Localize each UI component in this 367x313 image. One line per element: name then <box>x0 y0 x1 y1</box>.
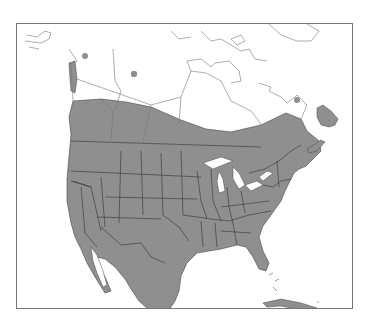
range-coastal-strip <box>69 61 77 93</box>
range-dot-yukon <box>82 53 88 59</box>
map-frame <box>16 23 353 309</box>
north-america-map <box>17 24 353 309</box>
caribbean-islands <box>269 273 319 303</box>
range-cuba <box>263 299 317 309</box>
range-dot-labrador <box>294 97 300 103</box>
range-dot-nwt <box>131 71 137 77</box>
range-newfoundland <box>317 105 338 127</box>
